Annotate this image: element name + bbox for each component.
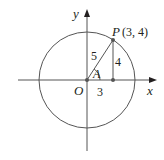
origin-label: O	[74, 83, 84, 98]
horizontal-label: 3	[97, 85, 103, 99]
point-p-coords: (3, 4)	[122, 25, 148, 39]
diagram-canvas: y x O P (3, 4) 5 4 3 A	[0, 0, 164, 160]
hypotenuse-label: 5	[91, 49, 97, 63]
angle-label: A	[92, 67, 101, 81]
trig-diagram: y x O P (3, 4) 5 4 3 A	[0, 0, 164, 160]
x-axis-label: x	[146, 83, 153, 98]
point-p-label: P	[111, 24, 120, 39]
origin-point	[85, 78, 89, 82]
y-axis-arrow-icon	[84, 9, 90, 17]
vertical-label: 4	[115, 55, 121, 69]
y-axis-label: y	[71, 6, 79, 21]
foot-point	[111, 78, 115, 82]
